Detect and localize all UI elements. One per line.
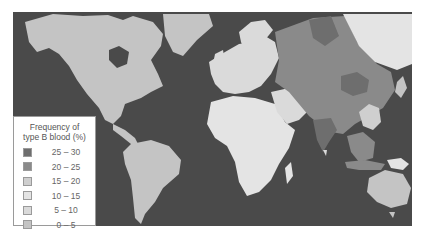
swatch-0-5 [23,220,32,229]
swatch-25-30 [23,148,32,157]
swatch-20-25 [23,162,32,171]
legend-item-10-15: 10 – 15 [14,189,95,204]
legend-item-5-10: 5 – 10 [14,203,95,218]
legend-item-20-25: 20 – 25 [14,160,95,175]
swatch-5-10 [23,206,32,215]
legend-label: 10 – 15 [46,191,86,201]
legend-item-25-30: 25 – 30 [14,145,95,160]
legend-label: 15 – 20 [46,176,86,186]
swatch-15-20 [23,177,32,186]
legend-label: 20 – 25 [46,162,86,172]
legend: Frequency of type B blood (%) 25 – 30 20… [13,116,96,226]
legend-title-line2: type B blood (%) [14,132,95,142]
legend-item-0-5: 0 – 5 [14,218,95,233]
legend-label: 5 – 10 [46,205,86,215]
legend-label: 0 – 5 [46,220,86,230]
swatch-10-15 [23,191,32,200]
legend-label: 25 – 30 [46,147,86,157]
legend-title: Frequency of type B blood (%) [14,122,95,142]
legend-item-15-20: 15 – 20 [14,174,95,189]
legend-title-line1: Frequency of [14,122,95,132]
legend-items: 25 – 30 20 – 25 15 – 20 10 – 15 5 – 10 0… [14,145,95,232]
